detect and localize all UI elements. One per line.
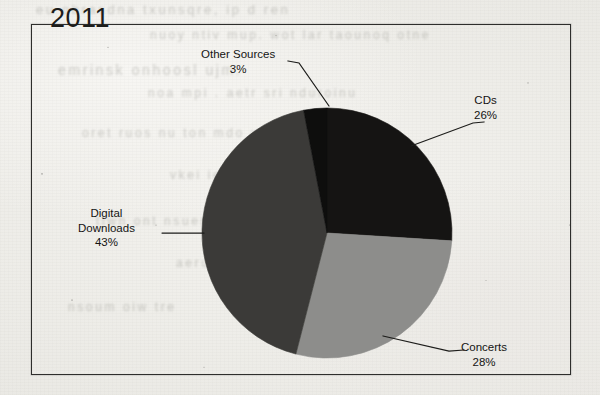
pie-slice-group [202, 108, 452, 358]
pie-label-digital-downloads-line2: Downloads [78, 221, 135, 236]
pie-label-other-sources-name: Other Sources [201, 48, 275, 60]
pie-label-cds-name: CDs [474, 94, 496, 106]
pie-label-concerts: Concerts 28% [461, 340, 507, 369]
scanned-page: eu obrasdna txunsqre, ip d rennuoy ntiv … [0, 0, 600, 395]
pie-label-concerts-name: Concerts [461, 341, 507, 353]
pie-label-digital-downloads: Digital Downloads 43% [78, 206, 135, 250]
pie-label-other-sources-percent: 3% [201, 62, 275, 77]
leader-line-concerts [383, 336, 464, 351]
pie-label-digital-downloads-line1: Digital [90, 207, 122, 219]
pie-slice-cds [327, 108, 452, 241]
pie-label-cds-percent: 26% [474, 108, 497, 123]
leader-line-other-sources [288, 61, 329, 106]
leader-line-cds [411, 122, 484, 146]
pie-chart-graphic [0, 0, 600, 395]
pie-label-other-sources: Other Sources 3% [201, 47, 275, 76]
chart-title: 2011 [50, 5, 110, 32]
pie-label-digital-downloads-percent: 43% [78, 235, 135, 250]
pie-label-cds: CDs 26% [474, 93, 497, 122]
pie-label-concerts-percent: 28% [461, 355, 507, 370]
